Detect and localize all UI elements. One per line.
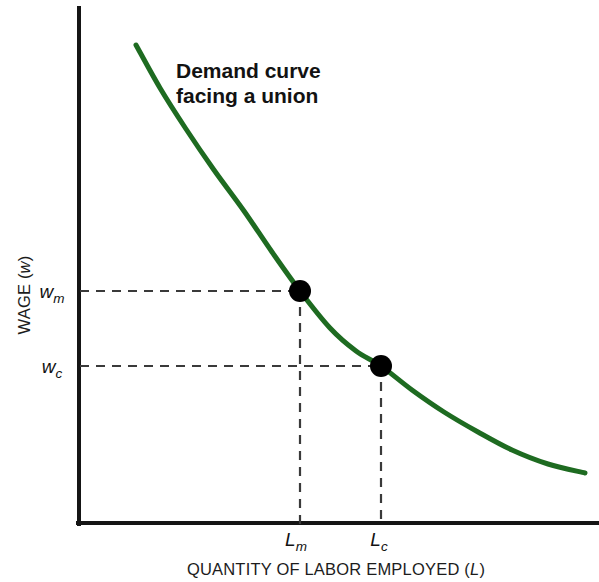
union-wage-data-point [289, 280, 311, 302]
y-tick-subscript-wm: m [53, 291, 64, 306]
economics-figure: Demand curve facing a union wm wc Lm Lc … [0, 0, 599, 582]
x-axis-title-suffix: ) [479, 560, 485, 578]
competitive-wage-data-point [370, 355, 392, 377]
x-axis-title: QUANTITY OF LABOR EMPLOYED (L) [187, 560, 485, 578]
y-axis-title-prefix: WAGE ( [15, 273, 33, 334]
x-tick-subscript-lc: c [381, 539, 388, 554]
curve-annotation-line2: facing a union [176, 84, 318, 107]
x-axis-title-symbol: L [470, 560, 479, 578]
x-axis-title-prefix: QUANTITY OF LABOR EMPLOYED ( [187, 560, 470, 578]
x-tick-symbol-lm: L [285, 529, 296, 550]
x-tick-subscript-lm: m [296, 539, 307, 554]
x-tick-symbol-lc: L [370, 529, 381, 550]
y-tick-subscript-wc: c [55, 366, 62, 381]
demand-curve-chart: Demand curve facing a union wm wc Lm Lc … [0, 0, 599, 582]
curve-annotation-line1: Demand curve [176, 59, 321, 82]
y-axis-title-symbol: w [15, 260, 33, 273]
y-axis-title: WAGE (w) [15, 256, 33, 335]
y-axis-title-suffix: ) [15, 256, 33, 262]
